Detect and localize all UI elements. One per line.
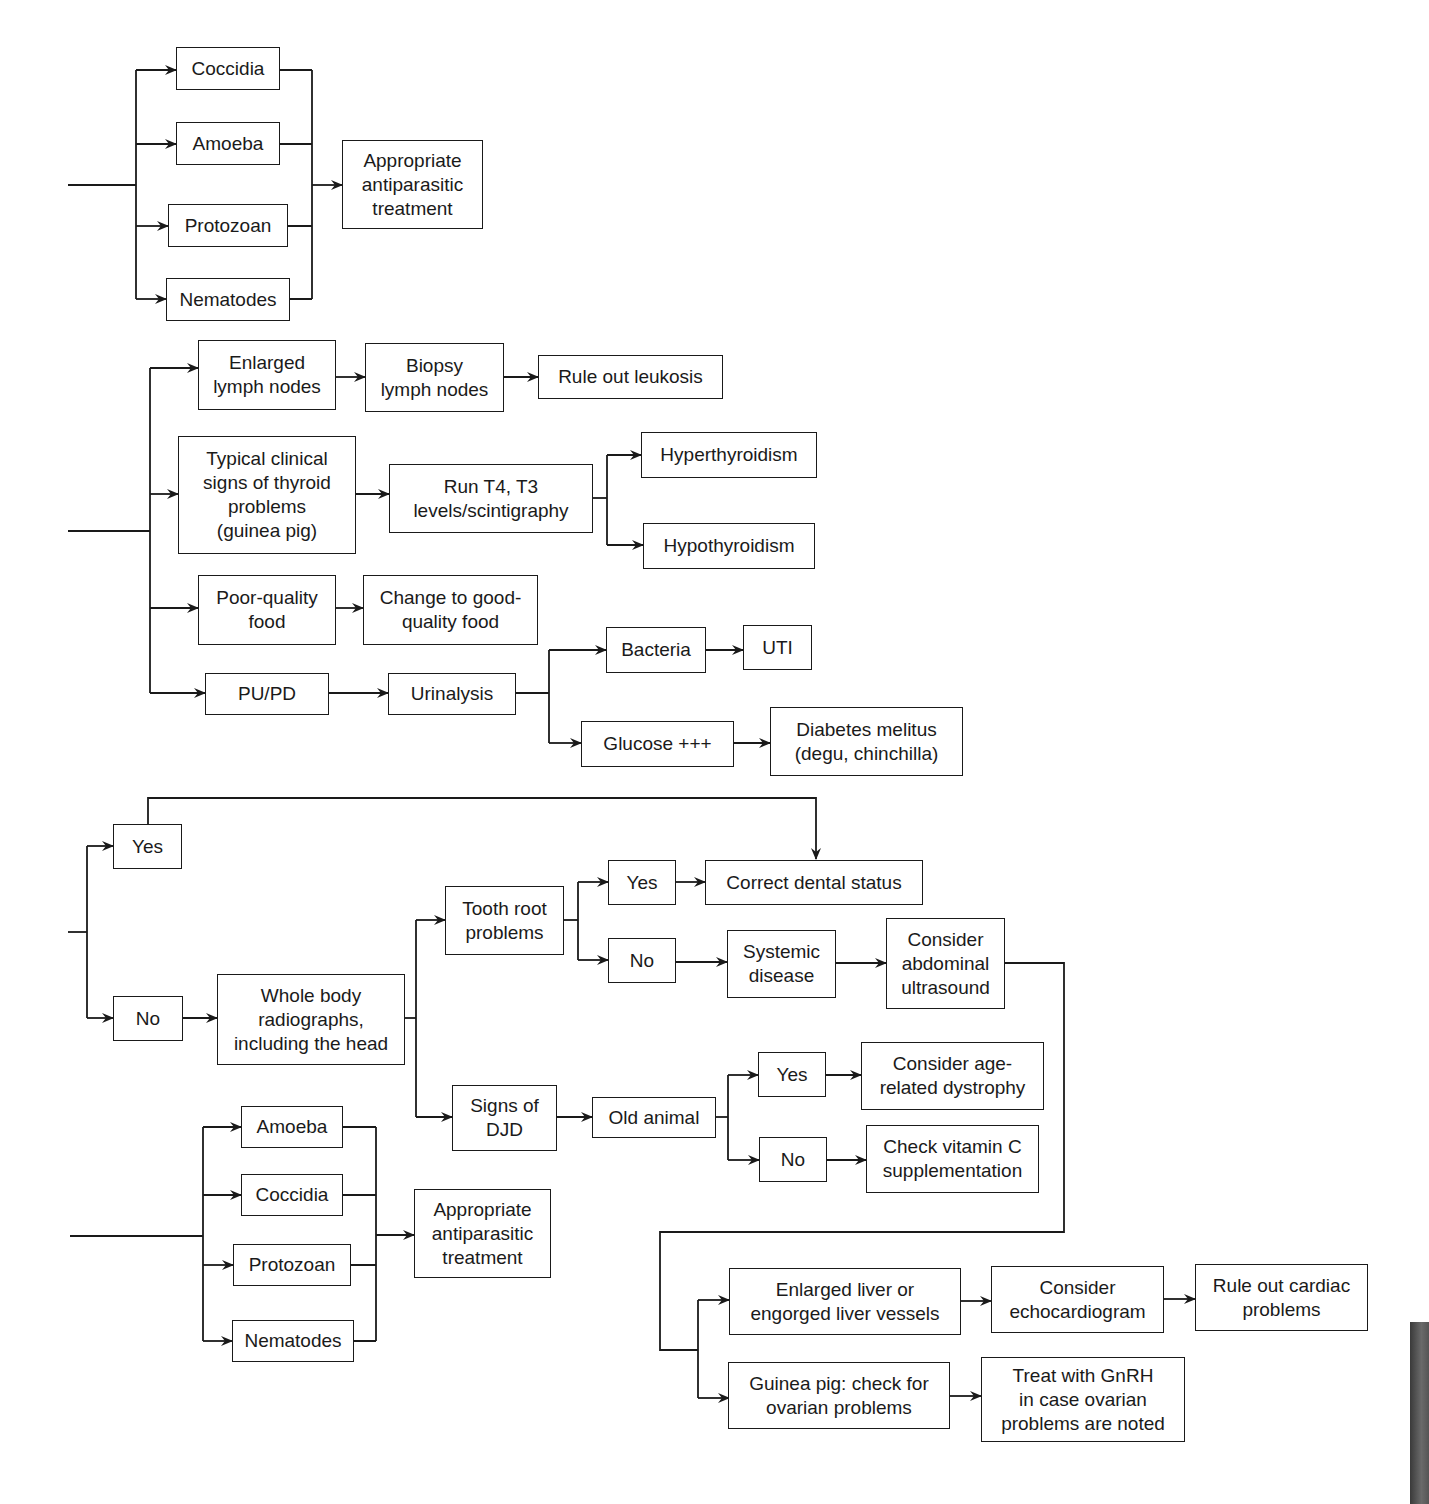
box-vitamin-c: Check vitamin C supplementation — [866, 1125, 1039, 1193]
box-guinea-pig-ovarian: Guinea pig: check for ovarian problems — [728, 1362, 950, 1429]
box-bacteria: Bacteria — [606, 627, 706, 673]
box-enlarged-lymph-nodes: Enlarged lymph nodes — [198, 340, 336, 410]
box-urinalysis: Urinalysis — [388, 673, 516, 715]
box-nematodes: Nematodes — [166, 278, 290, 321]
box-nematodes-bottom: Nematodes — [232, 1320, 354, 1362]
box-coccidia-bottom: Coccidia — [241, 1174, 343, 1216]
box-amoeba-bottom: Amoeba — [241, 1106, 343, 1148]
chapter-edge-tab — [1410, 1322, 1429, 1504]
box-coccidia: Coccidia — [176, 47, 280, 90]
box-consider-echocardiogram: Consider echocardiogram — [991, 1266, 1164, 1333]
box-diabetes-mellitus: Diabetes melitus (degu, chinchilla) — [770, 707, 963, 776]
box-hyperthyroidism: Hyperthyroidism — [641, 432, 817, 478]
box-antiparasitic-treatment-top: Appropriate antiparasitic treatment — [342, 140, 483, 229]
box-hypothyroidism: Hypothyroidism — [643, 523, 815, 569]
box-old-animal: Old animal — [592, 1097, 716, 1138]
box-poor-quality-food: Poor-quality food — [198, 575, 336, 645]
box-rule-out-cardiac: Rule out cardiac problems — [1195, 1264, 1368, 1331]
box-thyroid-signs: Typical clinical signs of thyroid proble… — [178, 436, 356, 554]
box-amoeba: Amoeba — [176, 122, 280, 165]
box-pu-pd: PU/PD — [205, 673, 329, 715]
box-run-t4-t3: Run T4, T3 levels/scintigraphy — [389, 464, 593, 533]
box-age-related-dystrophy: Consider age- related dystrophy — [861, 1042, 1044, 1110]
box-correct-dental-status: Correct dental status — [705, 860, 923, 905]
box-rule-out-leukosis: Rule out leukosis — [538, 355, 723, 399]
box-change-to-good-food: Change to good- quality food — [363, 575, 538, 645]
box-old-animal-no: No — [759, 1137, 827, 1182]
box-biopsy-lymph-nodes: Biopsy lymph nodes — [365, 343, 504, 412]
box-abdominal-ultrasound: Consider abdominal ultrasound — [886, 918, 1005, 1009]
box-glucose: Glucose +++ — [581, 721, 734, 767]
box-tooth-root-yes: Yes — [608, 860, 676, 905]
box-protozoan: Protozoan — [168, 204, 288, 247]
box-tooth-root-no: No — [608, 938, 676, 983]
box-enlarged-liver: Enlarged liver or engorged liver vessels — [729, 1268, 961, 1335]
box-systemic-disease: Systemic disease — [727, 930, 836, 998]
box-signs-of-djd: Signs of DJD — [452, 1085, 557, 1151]
box-uti: UTI — [743, 625, 812, 670]
box-whole-body-radiographs: Whole body radiographs, including the he… — [217, 974, 405, 1065]
box-antiparasitic-treatment-bottom: Appropriate antiparasitic treatment — [414, 1189, 551, 1278]
box-treat-gnrh: Treat with GnRH in case ovarian problems… — [981, 1357, 1185, 1442]
box-yes: Yes — [113, 824, 182, 869]
box-protozoan-bottom: Protozoan — [233, 1244, 351, 1286]
box-old-animal-yes: Yes — [758, 1052, 826, 1097]
box-tooth-root-problems: Tooth root problems — [445, 886, 564, 955]
box-no: No — [113, 996, 183, 1041]
